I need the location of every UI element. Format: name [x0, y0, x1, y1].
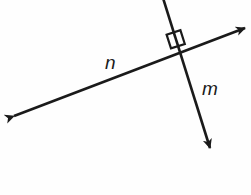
label-line-m: m	[202, 78, 218, 99]
line-m	[163, 0, 210, 148]
geometry-diagram: n m	[0, 0, 251, 195]
label-line-n: n	[105, 52, 116, 73]
diagram-svg: n m	[0, 0, 251, 195]
line-n	[14, 28, 245, 116]
